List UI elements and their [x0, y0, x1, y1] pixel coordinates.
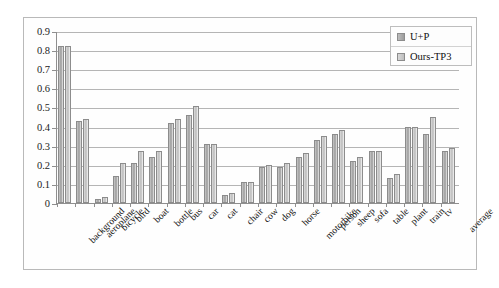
bar	[314, 140, 320, 203]
bar	[296, 157, 302, 203]
bar	[339, 130, 345, 203]
x-axis-category-label: tv	[442, 206, 454, 218]
bar	[449, 148, 455, 203]
bar-group	[148, 31, 166, 203]
bar	[204, 144, 210, 203]
bar	[222, 195, 228, 203]
bar-group	[167, 31, 185, 203]
y-axis-tick-label: 0.6	[16, 84, 50, 94]
chart-screenshot: 0.90.80.70.60.50.40.30.20.10 backgrounda…	[0, 0, 499, 288]
legend-label: Ours-TP3	[410, 51, 451, 62]
y-axis-tick-label: 0.5	[16, 103, 50, 113]
y-axis-tick-label: 0.7	[16, 65, 50, 75]
bar	[186, 115, 192, 203]
bar-group	[221, 31, 239, 203]
bar	[423, 134, 429, 203]
bar	[83, 119, 89, 203]
x-axis-category-label: boat	[152, 206, 171, 225]
y-axis-tick-label: 0.8	[16, 46, 50, 56]
bar-group	[368, 31, 386, 203]
bar	[350, 161, 356, 203]
bar	[131, 163, 137, 203]
bar	[248, 182, 254, 203]
legend-swatch-icon	[397, 53, 405, 61]
bar-group	[112, 31, 130, 203]
bar	[394, 174, 400, 203]
bar	[442, 151, 448, 203]
x-axis-category-labels: backgroundaeroplanebicyclebirdboatbottle…	[57, 206, 459, 268]
bar-group	[185, 31, 203, 203]
bar	[284, 163, 290, 203]
bar	[113, 176, 119, 203]
bar-group	[57, 31, 75, 203]
bar	[138, 151, 144, 203]
bar	[65, 46, 71, 203]
bar	[102, 197, 108, 203]
y-axis-tick-label: 0.3	[16, 142, 50, 152]
bar	[266, 165, 272, 203]
bar-group	[331, 31, 349, 203]
x-axis-category-label: table	[390, 206, 410, 226]
x-axis-category-label: cat	[224, 206, 239, 221]
legend-label: U+P	[410, 31, 429, 42]
bar	[175, 119, 181, 203]
bar-group	[203, 31, 221, 203]
bar	[156, 151, 162, 203]
bar	[168, 123, 174, 203]
bar-group	[295, 31, 313, 203]
bar	[149, 157, 155, 203]
y-axis-tick-labels: 0.90.80.70.60.50.40.30.20.10	[14, 27, 50, 209]
bar	[259, 167, 265, 203]
legend-swatch-icon	[397, 33, 405, 41]
bar	[303, 153, 309, 203]
legend-item-1[interactable]: Ours-TP3	[391, 46, 471, 66]
y-axis-tick-label: 0	[16, 199, 50, 209]
bar-group	[313, 31, 331, 203]
y-axis-tick-label: 0.1	[16, 180, 50, 190]
bar-group	[94, 31, 112, 203]
y-axis-tick-label: 0.9	[16, 27, 50, 37]
bar	[241, 182, 247, 203]
bar	[405, 127, 411, 203]
x-axis-category-label: sofa	[371, 206, 389, 224]
bar	[76, 121, 82, 203]
x-axis-category-label: horse	[300, 206, 322, 228]
chart-legend: U+P Ours-TP3	[390, 26, 472, 66]
bar-group	[258, 31, 276, 203]
y-axis-tick-label: 0.4	[16, 123, 50, 133]
bar-group	[276, 31, 294, 203]
bar	[277, 167, 283, 203]
bar	[412, 127, 418, 203]
bar	[387, 178, 393, 203]
bar-group	[240, 31, 258, 203]
bar-group	[130, 31, 148, 203]
legend-item-0[interactable]: U+P	[391, 27, 471, 46]
bar	[95, 199, 101, 203]
bar-group	[349, 31, 367, 203]
bar	[58, 46, 64, 203]
bar	[211, 144, 217, 203]
bar	[430, 117, 436, 203]
bar	[120, 163, 126, 203]
bar	[369, 151, 375, 203]
bar	[229, 193, 235, 203]
bar	[376, 151, 382, 203]
bar	[193, 106, 199, 203]
bar	[321, 136, 327, 203]
bar	[332, 134, 338, 203]
x-axis-category-label: car	[206, 206, 221, 221]
x-axis-category-label: dog	[280, 206, 297, 223]
bar	[357, 157, 363, 203]
bar-group	[75, 31, 93, 203]
y-axis-tick-label: 0.2	[16, 161, 50, 171]
